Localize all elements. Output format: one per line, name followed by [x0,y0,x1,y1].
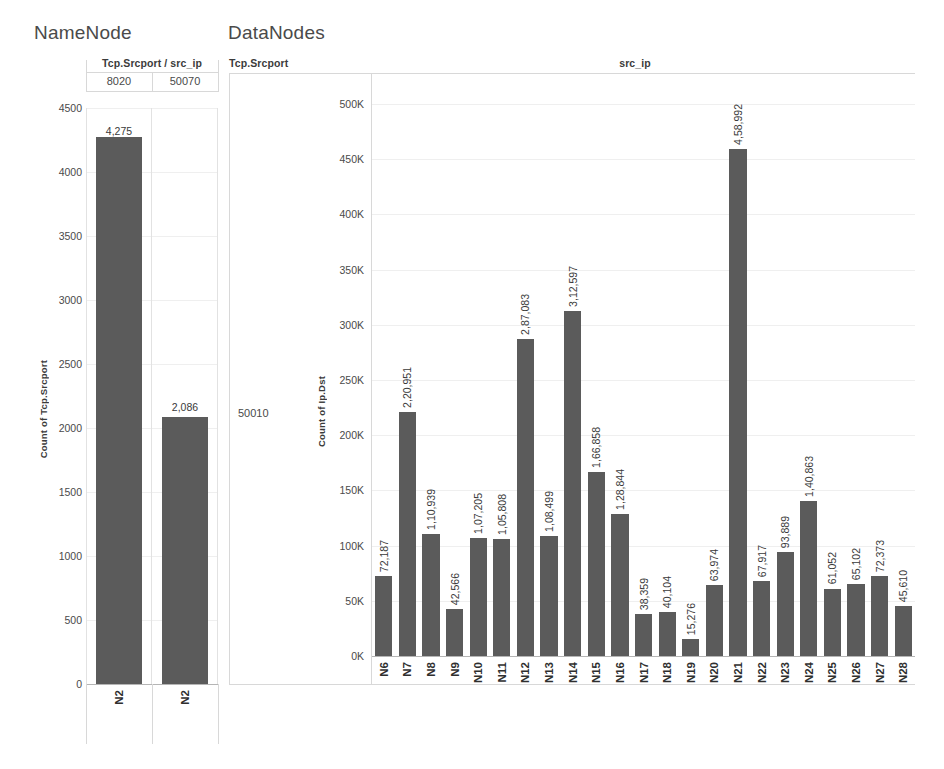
bar-value-label: 2,086 [152,401,218,413]
category-label: N12 [519,662,531,683]
datanodes-category-cell: N18 [655,662,679,683]
datanodes-row-header-value: 50010 [238,407,269,419]
namenode-header-left-edge [86,60,87,92]
bar-rect[interactable] [162,417,208,684]
bar-group-N23[interactable]: 93,889 [773,104,797,656]
bar-rect[interactable] [399,412,416,656]
bar-group-N9[interactable]: 42,566 [443,104,467,656]
bar-group-N10[interactable]: 1,07,205 [466,104,490,656]
bar-group-N15[interactable]: 1,66,858 [584,104,608,656]
category-label: N13 [543,662,555,683]
bar-group-N8[interactable]: 1,10,939 [419,104,443,656]
bar-group-N11[interactable]: 1,05,808 [490,104,514,656]
category-label: N7 [401,662,413,677]
datanodes-category-cell: N20 [703,662,727,683]
datanodes-ytick-200K: 200K [339,429,364,441]
datanodes-ytick-250K: 250K [339,374,364,386]
dashboard-root: NameNode Tcp.Srcport / src_ip 8020 50070… [0,0,944,769]
datanodes-category-cell: N14 [561,662,585,683]
datanodes-ytick-400K: 400K [339,208,364,220]
bar-rect[interactable] [871,576,888,656]
bar-rect[interactable] [895,606,912,656]
namenode-category-cell: N2 [152,690,218,705]
namenode-column-value-8020: 8020 [86,75,152,87]
bar-rect[interactable] [611,514,628,656]
bar-group-N21[interactable]: 4,58,992 [726,104,750,656]
category-label: N6 [378,662,390,677]
datanodes-category-labels: N6N7N8N9N10N11N12N13N14N15N16N17N18N19N2… [372,662,915,683]
datanodes-category-cell: N16 [608,662,632,683]
category-label: N19 [685,662,697,683]
bar-rect[interactable] [422,534,439,656]
bar-group-N13[interactable]: 1,08,499 [537,104,561,656]
bar-rect[interactable] [493,539,510,656]
datanodes-category-cell: N26 [844,662,868,683]
bar-rect[interactable] [588,472,605,656]
bar-group-8020[interactable]: 4,275 [86,108,152,684]
bar-group-N28[interactable]: 45,610 [891,104,915,656]
bar-rect[interactable] [753,581,770,656]
bar-rect[interactable] [706,585,723,656]
bar-rect[interactable] [635,614,652,656]
bar-group-N12[interactable]: 2,87,083 [514,104,538,656]
bar-group-N26[interactable]: 65,102 [844,104,868,656]
bar-group-N18[interactable]: 40,104 [655,104,679,656]
bar-group-N17[interactable]: 38,359 [632,104,656,656]
bar-group-N25[interactable]: 61,052 [821,104,845,656]
bar-group-N27[interactable]: 72,373 [868,104,892,656]
bar-rect[interactable] [564,311,581,656]
category-label: N20 [708,662,720,683]
namenode-footer-left-edge [86,684,87,744]
bar-rect[interactable] [375,576,392,656]
category-label: N18 [661,662,673,683]
bar-group-N6[interactable]: 72,187 [372,104,396,656]
bar-rect[interactable] [446,609,463,656]
namenode-ytick-3000: 3000 [59,294,82,306]
category-label: N10 [472,662,484,683]
bar-value-label: 93,889 [779,516,791,548]
datanodes-category-cell: N23 [773,662,797,683]
bar-rect[interactable] [470,538,487,656]
bar-rect[interactable] [847,584,864,656]
bar-group-N22[interactable]: 67,917 [750,104,774,656]
bar-value-label: 72,373 [874,540,886,572]
category-label: N17 [638,662,650,683]
bar-group-N14[interactable]: 3,12,597 [561,104,585,656]
datanodes-ytick-150K: 150K [339,484,364,496]
bar-value-label: 67,917 [756,545,768,577]
bar-rect[interactable] [729,149,746,656]
namenode-ytick-4000: 4000 [59,166,82,178]
bar-group-N7[interactable]: 2,20,951 [396,104,420,656]
datanodes-header-divider [229,73,915,74]
bar-group-N20[interactable]: 63,974 [703,104,727,656]
datanodes-category-cell: N8 [419,662,443,683]
bar-rect[interactable] [777,552,794,656]
datanodes-category-cell: N11 [490,662,514,683]
bar-group-50070[interactable]: 2,086 [152,108,218,684]
bar-group-N19[interactable]: 15,276 [679,104,703,656]
datanodes-y-axis: 500K 450K 400K 350K 300K 250K 200K 150K … [318,104,364,656]
bar-rect[interactable] [96,137,142,684]
bar-rect[interactable] [540,536,557,656]
namenode-ytick-2000: 2000 [59,422,82,434]
datanodes-category-cell: N10 [466,662,490,683]
bar-value-label: 42,566 [449,573,461,605]
bar-value-label: 15,276 [685,603,697,635]
bar-rect[interactable] [659,612,676,656]
category-label: N24 [803,662,815,683]
category-label: N2 [113,690,125,705]
bar-group-N16[interactable]: 1,28,844 [608,104,632,656]
category-label: N9 [449,662,461,677]
namenode-ytick-0: 0 [76,678,82,690]
bar-rect[interactable] [824,589,841,656]
bar-rect[interactable] [517,339,534,656]
datanodes-category-cell: N17 [632,662,656,683]
datanodes-category-cell: N15 [584,662,608,683]
bar-value-label: 1,05,808 [496,494,508,535]
bar-rect[interactable] [682,639,699,656]
category-label: N27 [874,662,886,683]
bar-rect[interactable] [800,501,817,657]
namenode-footer-mid-edge [152,684,153,744]
bar-group-N24[interactable]: 1,40,863 [797,104,821,656]
bar-value-label: 38,359 [638,578,650,610]
